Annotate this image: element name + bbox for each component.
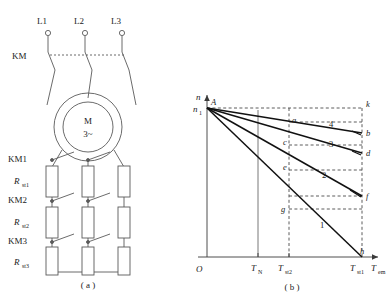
- point-label-g: g: [281, 204, 285, 214]
- resistor-Rst3-ph2: [82, 247, 94, 275]
- resistor-Rst2-ph2: [82, 207, 94, 238]
- curve-label-3: 3: [329, 139, 333, 149]
- transition-arrows: [350, 131, 361, 197]
- point-label-a: a: [292, 115, 296, 125]
- label-KM3: KM3: [8, 236, 28, 246]
- terminal-L2: [82, 30, 87, 35]
- stator-lead-1: [47, 70, 55, 105]
- point-label-b: b: [366, 128, 370, 138]
- x-tick-label-Tst2: T st2: [278, 263, 292, 275]
- label-Rst3-main: R: [13, 257, 20, 267]
- x-axis-arrow: [372, 254, 378, 260]
- stator-lead-3: [129, 70, 136, 105]
- label-Rst3-sub: st3: [22, 263, 29, 269]
- resistor-Rst1-ph3: [118, 166, 130, 197]
- point-label-h: h: [360, 246, 364, 256]
- figure-root: L1 L2 L3 KM KM1 KM2 KM3 R st1 R st2 R st…: [0, 0, 390, 299]
- axis-origin-O: O: [196, 264, 203, 274]
- curve-label-4: 4: [329, 119, 334, 129]
- x-tick-Tst1-sub: st1: [357, 269, 364, 275]
- label-KM: KM: [12, 51, 27, 61]
- point-label-k: k: [366, 99, 370, 109]
- x-axis-title-main: T: [371, 263, 377, 273]
- panel-a-circuit: [45, 30, 136, 275]
- x-tick-TN-main: T: [251, 263, 257, 273]
- resistor-Rst2-ph1: [46, 207, 58, 238]
- point-label-A: A: [210, 97, 217, 107]
- x-tick-TN-sub: N: [258, 269, 263, 275]
- terminal-L3: [119, 30, 124, 35]
- x-tick-label-TN: T N: [251, 263, 263, 275]
- x-tick-marks: [258, 253, 289, 257]
- label-Rst1: R st1: [13, 176, 29, 188]
- resistor-Rst3-ph1: [46, 247, 58, 275]
- x-tick-Tst2-main: T: [278, 263, 284, 273]
- label-Rst2-main: R: [13, 217, 20, 227]
- label-KM2: KM2: [8, 195, 27, 205]
- axis-label-n: n: [196, 92, 201, 102]
- x-tick-label-Tst1: T st1: [350, 263, 364, 275]
- curve-label-2: 2: [322, 170, 326, 180]
- label-L1: L1: [37, 16, 47, 26]
- point-label-d: d: [366, 148, 371, 158]
- label-L3: L3: [111, 16, 121, 26]
- label-KM1: KM1: [8, 154, 27, 164]
- label-Rst2: R st2: [13, 217, 29, 229]
- point-label-f: f: [366, 191, 370, 201]
- figure-svg: L1 L2 L3 KM KM1 KM2 KM3 R st1 R st2 R st…: [0, 0, 390, 299]
- motor-inner-circle: [63, 102, 113, 152]
- resistor-Rst2-ph3: [118, 207, 130, 238]
- resistor-Rst1-ph1: [46, 166, 58, 197]
- caption-b: ( b ): [285, 282, 300, 292]
- y-axis-arrow: [204, 95, 210, 101]
- motor-outer-circle: [54, 93, 122, 161]
- x-axis-title-sub: em: [378, 269, 386, 275]
- rotor-lead-3: [114, 150, 124, 167]
- x-axis-title-Tem: T em: [371, 263, 386, 275]
- stator-lead-2: [88, 70, 92, 98]
- label-L2: L2: [74, 16, 84, 26]
- label-Rst1-main: R: [13, 176, 20, 186]
- motor-symbol-M: M: [84, 116, 92, 126]
- resistor-Rst1-ph2: [82, 166, 94, 197]
- characteristic-curves: [207, 108, 362, 257]
- terminal-L1: [45, 30, 50, 35]
- point-label-e: e: [283, 162, 287, 172]
- label-Rst1-sub: st1: [22, 182, 29, 188]
- panel-b-chart: [198, 95, 378, 260]
- label-Rst2-sub: st2: [22, 223, 29, 229]
- x-tick-Tst1-main: T: [350, 263, 356, 273]
- caption-a: ( a ): [81, 280, 96, 290]
- axis-tick-n1-sub: 1: [199, 110, 202, 116]
- label-Rst3: R st3: [13, 257, 29, 269]
- motor-symbol-3ph: 3~: [83, 129, 93, 139]
- axis-tick-n1: n 1: [193, 104, 202, 116]
- axis-tick-n1-main: n: [193, 104, 198, 114]
- point-label-c: c: [283, 137, 287, 147]
- curve-label-1: 1: [320, 220, 324, 230]
- resistor-Rst3-ph3: [118, 247, 130, 275]
- x-tick-Tst2-sub: st2: [285, 269, 292, 275]
